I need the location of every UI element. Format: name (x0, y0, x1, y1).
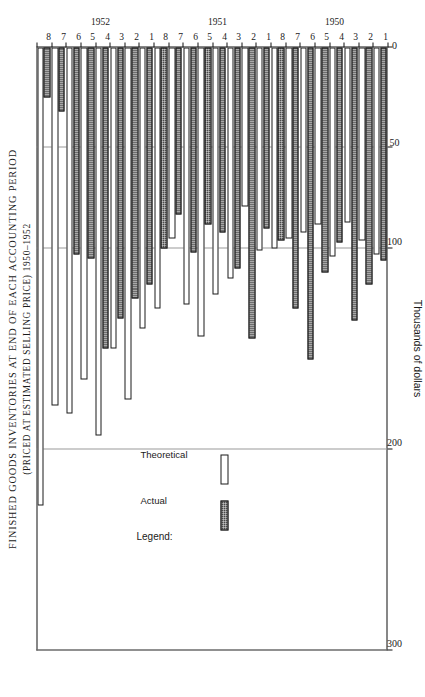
category-tick (285, 42, 286, 47)
bar-theoretical (197, 47, 203, 336)
value-tick-label: 100 (387, 235, 402, 246)
bar-theoretical (124, 47, 130, 399)
category-tick (138, 42, 139, 47)
category-tick (314, 42, 315, 47)
category-tick (329, 42, 330, 47)
category-label: 4 (221, 31, 226, 41)
bar-actual (58, 47, 64, 111)
bar-actual (351, 47, 357, 320)
bar-actual (307, 47, 313, 359)
bar-theoretical (212, 47, 218, 294)
bar-actual (160, 47, 166, 248)
bar-theoretical (300, 47, 306, 232)
bar-theoretical (227, 47, 233, 278)
bar-actual (219, 47, 225, 232)
bar-theoretical (37, 47, 43, 505)
bar-group (299, 47, 314, 650)
bar-group (212, 47, 227, 650)
category-label: 1 (265, 31, 270, 41)
category-tick (372, 42, 373, 47)
bar-theoretical (358, 47, 364, 240)
category-tick (197, 42, 198, 47)
category-tick (182, 42, 183, 47)
bar-actual (292, 47, 298, 308)
bar-theoretical (168, 47, 174, 238)
bar-theoretical (66, 47, 72, 413)
year-label-1951: 1951 (207, 16, 226, 26)
category-label: 8 (46, 31, 51, 41)
category-tick (109, 42, 110, 47)
bar-group (270, 47, 285, 650)
category-tick (358, 42, 359, 47)
category-label: 7 (295, 31, 300, 41)
legend-swatch-actual (220, 500, 228, 530)
category-label: 1 (382, 31, 387, 41)
bar-actual (117, 47, 123, 318)
bar-actual (234, 47, 240, 268)
bar-actual (73, 47, 79, 254)
category-tick (95, 42, 96, 47)
bar-theoretical (154, 47, 160, 308)
bar-theoretical (139, 47, 145, 328)
category-label: 6 (309, 31, 314, 41)
category-label: 3 (236, 31, 241, 41)
bar-group (51, 47, 66, 650)
bar-group (95, 47, 110, 650)
bar-theoretical (344, 47, 350, 222)
chart-subtitle: (PRICED AT ESTIMATED SELLING PRICE) 1950… (21, 0, 31, 697)
bar-actual (131, 47, 137, 298)
bar-group (343, 47, 358, 650)
category-tick (241, 42, 242, 47)
bar-group (372, 47, 387, 650)
value-axis-title: Thousands of dollars (411, 300, 423, 397)
rotated-figure-wrapper: FINISHED GOODS INVENTORIES AT END OF EAC… (0, 0, 425, 697)
bar-theoretical (183, 47, 189, 304)
bar-group (168, 47, 183, 650)
category-tick (153, 42, 154, 47)
bar-theoretical (256, 47, 262, 250)
year-label-1950: 1950 (324, 16, 343, 26)
chart-title-block: FINISHED GOODS INVENTORIES AT END OF EAC… (6, 0, 31, 697)
bar-actual (204, 47, 210, 224)
category-label: 2 (251, 31, 256, 41)
bar-actual (87, 47, 93, 258)
value-tick (387, 247, 392, 248)
category-label: 6 (192, 31, 197, 41)
chart-title: FINISHED GOODS INVENTORIES AT END OF EAC… (6, 0, 17, 697)
bar-group (138, 47, 153, 650)
bar-group (285, 47, 300, 650)
bar-actual (146, 47, 152, 284)
bar-theoretical (241, 47, 247, 206)
value-tick-label: 50 (389, 137, 399, 148)
bar-actual (43, 47, 49, 97)
bar-actual (277, 47, 283, 240)
category-tick (124, 42, 125, 47)
bar-theoretical (95, 47, 101, 435)
category-tick (255, 42, 256, 47)
bar-group (109, 47, 124, 650)
chart-figure: FINISHED GOODS INVENTORIES AT END OF EAC… (0, 0, 425, 697)
category-label: 5 (207, 31, 212, 41)
bar-group (36, 47, 51, 650)
bar-group (226, 47, 241, 650)
bar-group (153, 47, 168, 650)
legend-heading: Legend: (136, 530, 172, 541)
category-tick (226, 42, 227, 47)
category-label: 2 (134, 31, 139, 41)
category-label: 5 (90, 31, 95, 41)
bar-theoretical (329, 47, 335, 256)
category-tick (343, 42, 344, 47)
bar-group (65, 47, 80, 650)
bars-container (36, 47, 387, 650)
category-tick (36, 42, 37, 47)
bar-theoretical (314, 47, 320, 224)
bar-group (197, 47, 212, 650)
category-tick (299, 42, 300, 47)
category-tick (270, 42, 271, 47)
category-label: 8 (163, 31, 168, 41)
category-label: 4 (338, 31, 343, 41)
legend-label-actual: Actual (140, 494, 166, 505)
category-label: 3 (119, 31, 124, 41)
bar-theoretical (373, 47, 379, 254)
category-label: 3 (353, 31, 358, 41)
